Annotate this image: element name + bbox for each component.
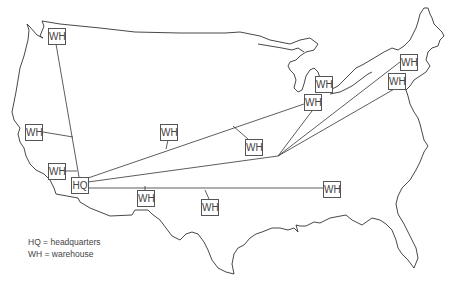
legend: HQ = headquarters WH = warehouse [28,236,101,260]
warehouse-box: WH [25,124,43,141]
warehouse-box: WH [323,181,341,198]
warehouse-box: WH [304,94,322,111]
warehouse-box: WH [48,163,66,180]
hq-box: HQ [71,177,89,194]
us-outline [12,8,444,274]
connection-lines [43,44,400,199]
legend-wh: WH = warehouse [28,248,101,260]
warehouse-box: WH [245,139,263,156]
warehouse-box: WH [400,54,418,71]
warehouse-box: WH [160,124,178,141]
warehouse-box: WH [201,199,219,216]
legend-hq: HQ = headquarters [28,236,101,248]
warehouse-box: WH [137,190,155,207]
warehouse-box: WH [48,28,66,45]
warehouse-box: WH [388,73,406,90]
warehouse-box: WH [315,76,333,93]
